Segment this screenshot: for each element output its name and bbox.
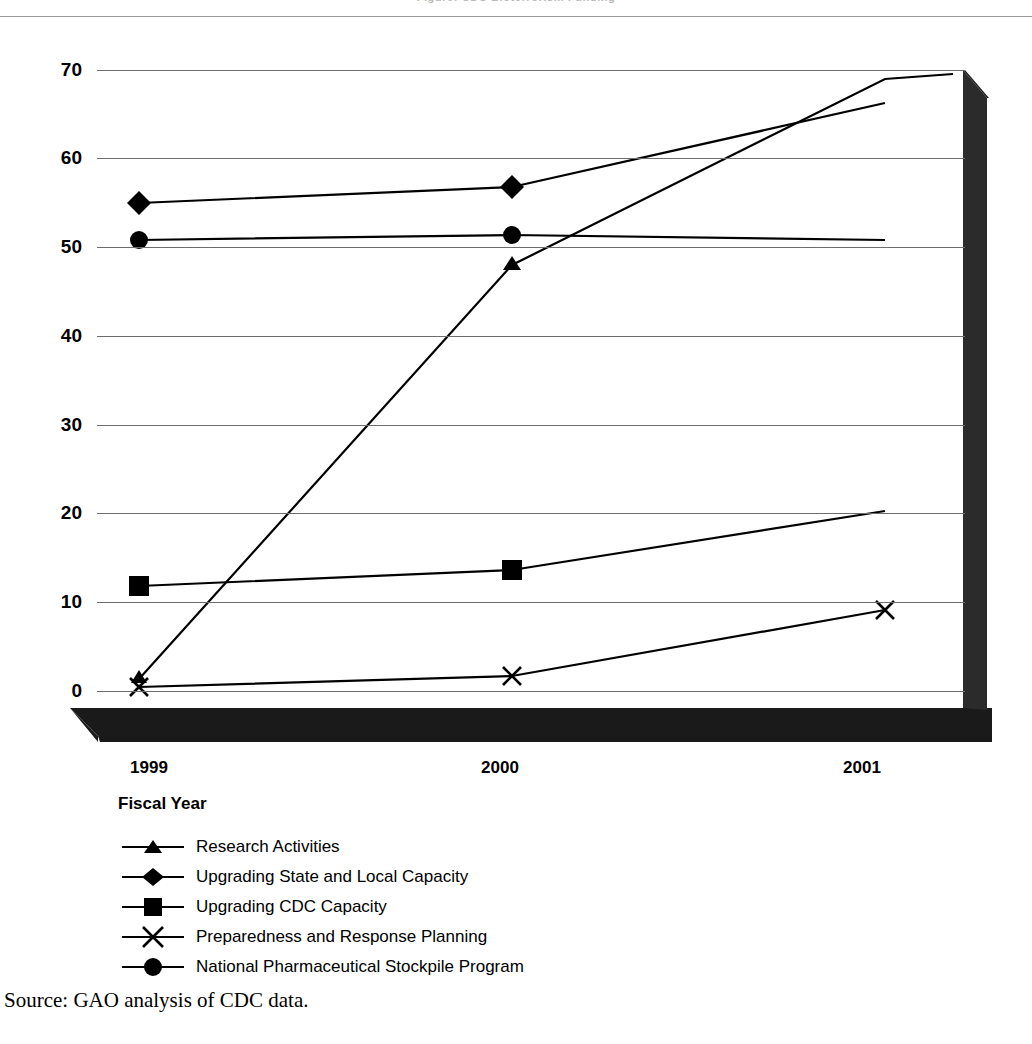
series-layer xyxy=(97,70,965,708)
chart-floor-3d xyxy=(70,706,992,746)
y-axis-ticks: 70 60 50 40 30 20 10 0 xyxy=(20,70,82,708)
x-tick-2000: 2000 xyxy=(481,758,519,778)
gridline-70 xyxy=(97,70,965,71)
series-research-activities xyxy=(131,74,953,683)
gridline-30 xyxy=(97,425,965,426)
triangle-marker-icon xyxy=(122,836,184,858)
series-preparedness-response xyxy=(130,601,894,696)
gridline-0 xyxy=(97,691,965,692)
header-divider xyxy=(0,16,1032,17)
clipped-heading-text: Figure: CDC Bioterrorism Funding xyxy=(0,0,1032,3)
gridline-60 xyxy=(97,158,965,159)
legend-item-national-stockpile[interactable]: National Pharmaceutical Stockpile Progra… xyxy=(122,952,742,982)
legend-label: National Pharmaceutical Stockpile Progra… xyxy=(196,957,524,977)
y-tick-0: 0 xyxy=(22,680,82,702)
y-tick-10: 10 xyxy=(22,591,82,613)
legend-item-research-activities[interactable]: Research Activities xyxy=(122,832,742,862)
legend-label: Upgrading CDC Capacity xyxy=(196,897,387,917)
series-upgrading-cdc xyxy=(129,511,885,596)
y-tick-20: 20 xyxy=(22,502,82,524)
circle-marker-icon xyxy=(122,956,184,978)
x-tick-1999: 1999 xyxy=(130,758,168,778)
x-axis-title: Fiscal Year xyxy=(118,794,207,814)
gridline-50 xyxy=(97,247,965,248)
legend-item-upgrading-state-local[interactable]: Upgrading State and Local Capacity xyxy=(122,862,742,892)
cross-marker-icon xyxy=(122,926,184,948)
gridline-40 xyxy=(97,336,965,337)
y-tick-50: 50 xyxy=(22,236,82,258)
plot-area xyxy=(97,70,965,708)
chart-legend: Research Activities Upgrading State and … xyxy=(122,832,742,982)
legend-item-preparedness-response[interactable]: Preparedness and Response Planning xyxy=(122,922,742,952)
legend-label: Upgrading State and Local Capacity xyxy=(196,867,468,887)
x-tick-2001: 2001 xyxy=(843,758,881,778)
gridline-20 xyxy=(97,513,965,514)
y-tick-70: 70 xyxy=(22,59,82,81)
series-national-stockpile xyxy=(130,226,885,249)
series-upgrading-state-local xyxy=(127,103,885,215)
y-tick-30: 30 xyxy=(22,414,82,436)
gridline-10 xyxy=(97,602,965,603)
y-tick-60: 60 xyxy=(22,147,82,169)
source-note: Source: GAO analysis of CDC data. xyxy=(4,988,308,1013)
legend-label: Research Activities xyxy=(196,837,340,857)
legend-item-upgrading-cdc[interactable]: Upgrading CDC Capacity xyxy=(122,892,742,922)
y-tick-40: 40 xyxy=(22,325,82,347)
chart-right-wall-3d xyxy=(963,70,989,735)
legend-label: Preparedness and Response Planning xyxy=(196,927,487,947)
x-axis-ticks: 1999 2000 2001 xyxy=(0,758,1032,784)
diamond-marker-icon xyxy=(122,866,184,888)
square-marker-icon xyxy=(122,896,184,918)
